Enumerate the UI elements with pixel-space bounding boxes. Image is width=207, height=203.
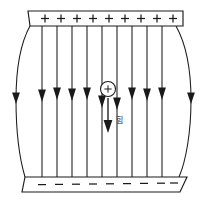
- field-arrowhead-4: [83, 88, 91, 101]
- top-plate: [28, 11, 183, 26]
- bottom-plate: [22, 177, 187, 192]
- field-line-fringe-right: [176, 26, 191, 177]
- field-arrowhead-8: [143, 89, 151, 102]
- top-plate-charges: [41, 15, 177, 23]
- field-arrowhead-5: [98, 96, 106, 109]
- force-label: 힘: [116, 115, 123, 125]
- field-arrowhead-9: [158, 88, 166, 101]
- diagram-canvas: 힘: [0, 0, 207, 203]
- force-vector: [104, 98, 113, 133]
- field-arrowhead-fringe-left: [12, 93, 20, 105]
- field-arrowhead-6: [113, 98, 121, 111]
- force-arrowhead: [104, 120, 113, 133]
- field-arrowhead-1: [38, 90, 46, 103]
- bottom-plate-body: [22, 177, 187, 192]
- capacitor-field-diagram: Parallel plate capacitor with uniform el…: [0, 0, 207, 203]
- field-arrowhead-fringe-right: [187, 93, 195, 105]
- field-line-fringe-left: [16, 26, 30, 177]
- field-arrowhead-2: [53, 88, 61, 101]
- test-charge: [101, 82, 116, 97]
- field-arrowhead-3: [68, 89, 76, 102]
- electric-field-lines: [12, 26, 195, 177]
- field-arrowhead-7: [128, 88, 136, 101]
